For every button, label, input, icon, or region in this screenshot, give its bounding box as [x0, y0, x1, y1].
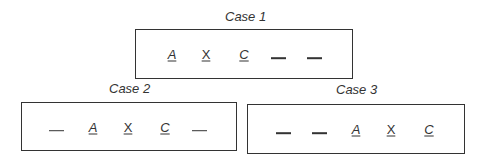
case-3-box: A X C	[247, 104, 465, 154]
case-1-title: Case 1	[225, 9, 266, 24]
case-2-box: A X C	[21, 102, 237, 151]
case-1-slot-5-blank	[307, 49, 323, 59]
case-3-slot-5: C	[421, 122, 437, 137]
case-1-slot-1: A	[164, 47, 180, 62]
case-1-slot-3: C	[236, 47, 252, 62]
case-1-slot-4-blank	[271, 49, 287, 59]
case-2-slot-1-blank	[49, 122, 65, 132]
case-3-slot-3: A	[348, 122, 364, 137]
case-2-slot-4: C	[157, 119, 173, 134]
case-3-slot-1-blank	[276, 124, 292, 134]
case-2-slot-3: X	[120, 119, 136, 134]
case-1-box: A X C	[135, 29, 353, 79]
case-1-slot-2: X	[198, 47, 214, 62]
case-3-slot-4: X	[383, 122, 399, 137]
case-3-slot-2-blank	[312, 124, 328, 134]
case-2-slot-5-blank	[192, 122, 208, 132]
case-2-title: Case 2	[109, 81, 150, 96]
case-2-slot-2: A	[85, 119, 101, 134]
case-3-title: Case 3	[336, 82, 377, 97]
